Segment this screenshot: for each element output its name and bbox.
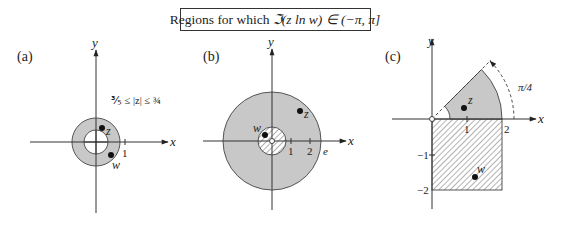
panel-label-a: (a)	[17, 49, 33, 65]
panel-a: (a) x y 1 z w ⅗ ≤ |z| ≤ ¾	[17, 35, 176, 213]
point-z-label-a: z	[105, 124, 111, 138]
panel-c: (c) π/4 x y 1 2 −1 −2 z w	[385, 33, 544, 209]
panel-b: (b) x y 1 2 e z w	[203, 34, 354, 210]
tick-label-1-a: 1	[122, 147, 128, 159]
title-text: Regions for which ℑ(z ln w) ∈ (−π, π]	[170, 12, 381, 27]
x-axis-label-b: x	[347, 133, 354, 148]
point-w-label-c: w	[477, 162, 485, 176]
point-w-label-a: w	[112, 158, 120, 172]
tick-label-e-b: e	[323, 145, 328, 157]
angle-label-c: π/4	[518, 81, 533, 93]
y-axis-label-c: y	[426, 33, 434, 48]
figure: Regions for which ℑ(z ln w) ∈ (−π, π] (a…	[0, 0, 564, 225]
tick-label-1-b: 1	[288, 145, 294, 157]
point-z-label-c: z	[467, 93, 473, 107]
tick-label-m1-c: −1	[417, 149, 429, 161]
point-z-label-b: z	[303, 107, 309, 121]
x-axis-label-c: x	[537, 111, 544, 126]
y-axis-label-a: y	[90, 35, 98, 50]
x-axis-label-a: x	[169, 134, 176, 149]
tick-label-m2-c: −2	[417, 184, 429, 196]
point-w-b	[262, 132, 268, 138]
title-box: Regions for which ℑ(z ln w) ∈ (−π, π]	[170, 9, 381, 31]
y-axis-label-b: y	[266, 34, 274, 49]
origin-hole-b	[270, 139, 275, 144]
annular-sector-c	[445, 70, 502, 120]
origin-hole-c	[430, 117, 435, 122]
panel-label-b: (b)	[203, 49, 220, 65]
tick-label-2-b: 2	[307, 145, 313, 157]
tick-label-2-c: 2	[504, 123, 510, 135]
point-z-a	[99, 125, 105, 131]
modulus-annotation-a: ⅗ ≤ |z| ≤ ¾	[111, 95, 161, 106]
point-w-label-b: w	[253, 121, 261, 135]
point-z-c	[461, 105, 467, 111]
tick-label-1-c: 1	[464, 123, 470, 135]
panel-label-c: (c)	[385, 49, 401, 65]
point-z-b	[297, 108, 303, 114]
